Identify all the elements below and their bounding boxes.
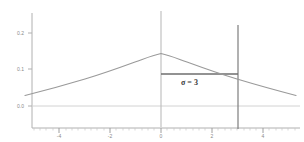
xtick-label-0: -4 <box>52 133 66 139</box>
ytick-label-0: 0.2 <box>8 30 24 36</box>
xtick-label-4: 4 <box>256 133 270 139</box>
xtick-label-1: -2 <box>103 133 117 139</box>
ytick-label-2: 0.0 <box>8 103 24 109</box>
sigma-annotation-label: σ = 3 <box>181 78 198 87</box>
ytick-label-1: 0.1 <box>8 66 24 72</box>
chart-figure: 0.2 0.1 0.0 -4 -2 0 2 4 σ = 3 <box>0 0 304 142</box>
normal-distribution-plot <box>0 0 304 142</box>
xtick-label-3: 2 <box>205 133 219 139</box>
xtick-label-2: 0 <box>154 133 168 139</box>
